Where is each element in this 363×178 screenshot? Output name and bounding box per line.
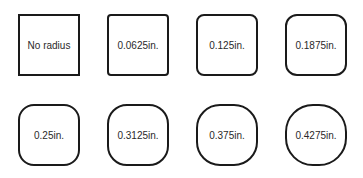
box-label: No radius bbox=[28, 40, 71, 51]
box-no-radius: No radius bbox=[18, 14, 80, 76]
box-label: 0.125in. bbox=[209, 40, 245, 51]
box-label: 0.3125in. bbox=[117, 130, 158, 141]
box-label: 0.0625in. bbox=[117, 40, 158, 51]
box-radius-0-125: 0.125in. bbox=[196, 14, 258, 76]
box-label: 0.4275in. bbox=[295, 130, 336, 141]
box-radius-0-375: 0.375in. bbox=[196, 104, 258, 166]
box-radius-0-3125: 0.3125in. bbox=[107, 104, 169, 166]
box-radius-0-1875: 0.1875in. bbox=[285, 14, 347, 76]
box-radius-0-4275: 0.4275in. bbox=[285, 104, 347, 166]
box-label: 0.375in. bbox=[209, 130, 245, 141]
box-radius-0-0625: 0.0625in. bbox=[107, 14, 169, 76]
box-label: 0.25in. bbox=[34, 130, 64, 141]
box-radius-0-25: 0.25in. bbox=[18, 104, 80, 166]
box-label: 0.1875in. bbox=[295, 40, 336, 51]
